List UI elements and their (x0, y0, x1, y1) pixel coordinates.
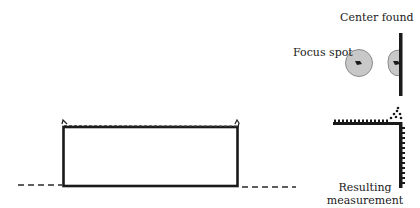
focus-spot-label: Focus spot (293, 46, 353, 59)
corner-mark-left (62, 120, 67, 124)
center-found-label: Center found (340, 11, 414, 24)
resulting-label-line1: Resulting (326, 181, 404, 194)
scan-path-dashed-line (64, 126, 237, 127)
resulting-measurement-icon (333, 107, 405, 188)
center-found-icon (388, 33, 403, 96)
diagram-canvas: Center found Focus spot Resulting measur… (0, 0, 420, 208)
diagram-svg (0, 0, 420, 208)
measured-object-rect (64, 127, 238, 186)
resulting-label-line2: measurement (326, 194, 404, 207)
resulting-measurement-label: Resulting measurement (326, 181, 404, 207)
